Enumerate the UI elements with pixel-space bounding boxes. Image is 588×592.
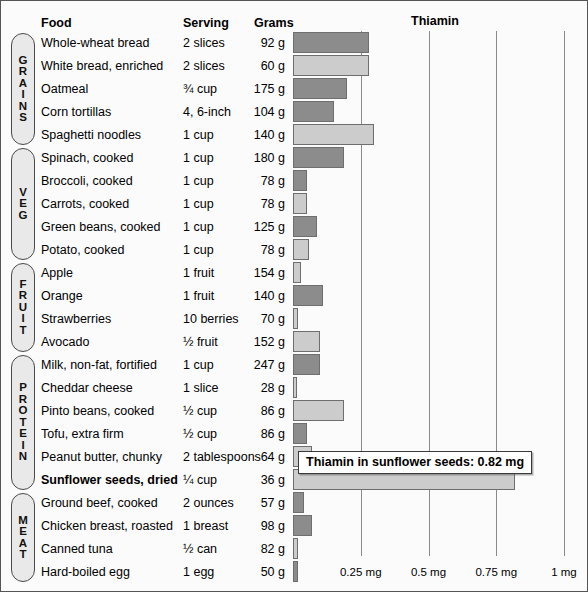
cell-grams: 140 g <box>239 289 285 303</box>
cell-grams: 175 g <box>239 82 285 96</box>
column-header-food: Food <box>41 16 72 30</box>
bar[interactable] <box>293 308 298 329</box>
bar[interactable] <box>293 170 307 191</box>
cell-serving: 4, 6-inch <box>183 105 231 119</box>
thiamin-bar-plot <box>293 31 566 556</box>
cell-serving: 2 slices <box>183 59 225 73</box>
gridline <box>564 31 565 556</box>
cell-food: Hard-boiled egg <box>41 565 130 579</box>
column-header-serving: Serving <box>183 16 229 30</box>
cell-grams: 78 g <box>239 174 285 188</box>
cell-serving: 10 berries <box>183 312 239 326</box>
cell-food: Apple <box>41 266 73 280</box>
bar[interactable] <box>293 78 347 99</box>
cell-serving: 1 cup <box>183 174 214 188</box>
cell-food: Avocado <box>41 335 89 349</box>
cell-serving: 1 cup <box>183 243 214 257</box>
cell-food: Carrots, cooked <box>41 197 129 211</box>
bar[interactable] <box>293 354 320 375</box>
cell-food: Milk, non-fat, fortified <box>41 358 157 372</box>
cell-serving: 1 cup <box>183 128 214 142</box>
cell-serving: 2 ounces <box>183 496 234 510</box>
bar[interactable] <box>293 193 307 214</box>
cell-food: Orange <box>41 289 83 303</box>
bar[interactable] <box>293 538 298 559</box>
cell-grams: 98 g <box>239 519 285 533</box>
cell-serving: 1 fruit <box>183 289 214 303</box>
cell-grams: 152 g <box>239 335 285 349</box>
cell-serving: 1 breast <box>183 519 228 533</box>
cell-food: Canned tuna <box>41 542 113 556</box>
cell-serving: ½ cup <box>183 404 217 418</box>
cell-serving: 1 cup <box>183 358 214 372</box>
x-tick-label: 1 mg <box>532 566 588 578</box>
bar[interactable] <box>293 331 320 352</box>
cell-serving: ½ fruit <box>183 335 218 349</box>
cell-food: Broccoli, cooked <box>41 174 133 188</box>
cell-food: Ground beef, cooked <box>41 496 158 510</box>
bar[interactable] <box>293 400 344 421</box>
cell-grams: 125 g <box>239 220 285 234</box>
cell-grams: 78 g <box>239 243 285 257</box>
cell-grams: 180 g <box>239 151 285 165</box>
cell-grams: 64 g <box>239 450 285 464</box>
cell-food: Strawberries <box>41 312 111 326</box>
x-tick-label: 0.5 mg <box>397 566 461 578</box>
bar[interactable] <box>293 561 298 582</box>
bar[interactable] <box>293 124 374 145</box>
cell-serving: 1 cup <box>183 197 214 211</box>
cell-serving: 2 slices <box>183 36 225 50</box>
cell-grams: 104 g <box>239 105 285 119</box>
cell-grams: 57 g <box>239 496 285 510</box>
bar[interactable] <box>293 423 307 444</box>
bar[interactable] <box>293 101 334 122</box>
x-tick-label: 0.75 mg <box>464 566 528 578</box>
column-header-grams: Grams <box>254 16 294 30</box>
cell-food: Whole-wheat bread <box>41 36 149 50</box>
cell-food: Pinto beans, cooked <box>41 404 154 418</box>
cell-food: Peanut butter, chunky <box>41 450 162 464</box>
bar[interactable] <box>293 492 304 513</box>
bar[interactable] <box>293 216 317 237</box>
cell-grams: 82 g <box>239 542 285 556</box>
cell-serving: ¾ cup <box>183 82 217 96</box>
cell-grams: 86 g <box>239 427 285 441</box>
cell-serving: 1 fruit <box>183 266 214 280</box>
cell-food: Potato, cooked <box>41 243 124 257</box>
bar[interactable] <box>293 239 309 260</box>
cell-food: Corn tortillas <box>41 105 111 119</box>
cell-grams: 36 g <box>239 473 285 487</box>
bar[interactable] <box>293 285 323 306</box>
bar[interactable] <box>293 55 369 76</box>
cell-grams: 50 g <box>239 565 285 579</box>
cell-serving: 1 slice <box>183 381 218 395</box>
bar[interactable] <box>293 262 301 283</box>
chart-frame: Food Serving Grams Thiamin GRAINSVEGFRUI… <box>0 0 588 592</box>
cell-serving: 1 cup <box>183 220 214 234</box>
cell-food: Tofu, extra firm <box>41 427 124 441</box>
cell-food: Spaghetti noodles <box>41 128 141 142</box>
bar[interactable] <box>293 377 297 398</box>
cell-grams: 92 g <box>239 36 285 50</box>
cell-food: Cheddar cheese <box>41 381 133 395</box>
cell-serving: 1 egg <box>183 565 214 579</box>
cell-grams: 78 g <box>239 197 285 211</box>
cell-food: Chicken breast, roasted <box>41 519 173 533</box>
cell-grams: 86 g <box>239 404 285 418</box>
x-tick-label: 0.25 mg <box>329 566 393 578</box>
bar[interactable] <box>293 32 369 53</box>
cell-serving: ¼ cup <box>183 473 217 487</box>
cell-grams: 247 g <box>239 358 285 372</box>
cell-food: Oatmeal <box>41 82 88 96</box>
cell-serving: 1 cup <box>183 151 214 165</box>
chart-title-thiamin: Thiamin <box>411 14 459 28</box>
cell-food: Spinach, cooked <box>41 151 133 165</box>
cell-food: White bread, enriched <box>41 59 163 73</box>
bar[interactable] <box>293 515 312 536</box>
cell-serving: ½ can <box>183 542 217 556</box>
cell-grams: 70 g <box>239 312 285 326</box>
cell-food: Green beans, cooked <box>41 220 161 234</box>
bar[interactable] <box>293 147 344 168</box>
cell-grams: 28 g <box>239 381 285 395</box>
cell-grams: 154 g <box>239 266 285 280</box>
